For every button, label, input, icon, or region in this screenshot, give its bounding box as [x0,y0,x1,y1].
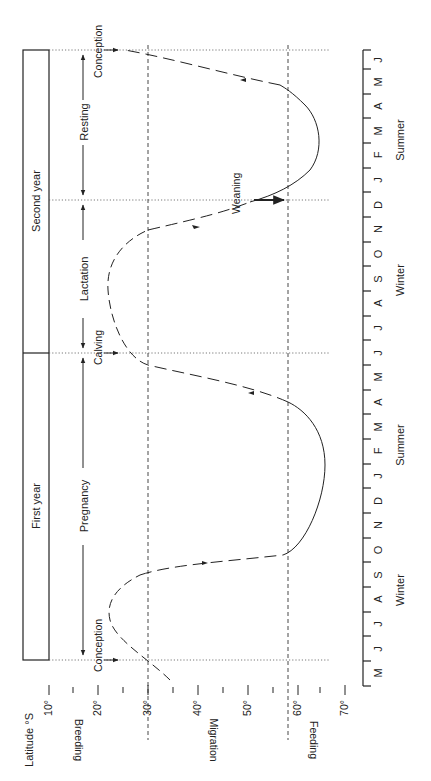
svg-text:A: A [372,595,384,603]
migration-curve [108,50,325,680]
curve-arrows [192,78,254,565]
svg-text:10°: 10° [42,700,54,716]
svg-text:O: O [372,545,384,554]
svg-text:30°: 30° [141,700,153,716]
svg-text:D: D [372,201,384,209]
svg-text:J: J [372,325,384,331]
latitude-ticks-labels: 10° 20° 30° 40° 50° 60° 70° [42,700,350,716]
weaning-label: Weaning [230,173,242,214]
svg-text:Winter: Winter [394,264,406,296]
svg-text:A: A [372,299,384,307]
conception-1-label: Conception [92,619,104,672]
svg-text:J: J [372,646,384,652]
svg-text:J: J [372,350,384,356]
time-axis [363,50,371,686]
latitude-axis-title: Latitude °S [23,713,35,767]
svg-text:N: N [372,225,384,233]
conception-2-label: Conception [92,25,104,78]
first-year-label: First year [30,483,42,529]
svg-text:F: F [372,447,384,454]
svg-text:S: S [372,571,384,578]
svg-text:J: J [372,621,384,627]
svg-text:O: O [372,249,384,258]
svg-text:J: J [372,177,384,183]
svg-text:J: J [372,57,384,63]
svg-text:F: F [372,151,384,158]
resting-label: Resting [78,103,90,140]
zone-migration: Migration [208,718,220,761]
svg-text:M: M [372,126,384,135]
svg-text:60°: 60° [291,700,303,716]
season-labels: Winter Summer Winter Summer [394,119,406,606]
year-box: First year Second year [23,50,49,660]
svg-text:M: M [372,77,384,86]
calving-label: Calving [92,330,104,365]
svg-text:Winter: Winter [394,574,406,606]
svg-text:40°: 40° [191,700,203,716]
svg-text:M: M [372,668,384,677]
latitude-axis [49,685,345,695]
zone-boundaries [148,45,288,740]
zone-breeding: Breeding [73,719,85,761]
svg-text:50°: 50° [241,700,253,716]
svg-text:D: D [372,497,384,505]
svg-text:A: A [372,398,384,406]
lactation-label: Lactation [78,257,90,302]
second-year-label: Second year [30,170,42,232]
svg-text:N: N [372,521,384,529]
svg-text:M: M [372,422,384,431]
svg-text:A: A [372,102,384,110]
month-labels: M J J A S O N D J F M A M J J A S O N D … [372,57,384,677]
svg-text:S: S [372,275,384,282]
svg-text:Summer: Summer [394,119,406,161]
svg-text:M: M [372,372,384,381]
pregnancy-label: Pregnancy [78,479,90,532]
svg-text:Summer: Summer [394,424,406,466]
migration-diagram: First year Second year Pregnancy Lactati… [0,0,431,781]
zone-feeding: Feeding [308,721,320,759]
svg-text:70°: 70° [338,700,350,716]
svg-text:J: J [372,473,384,479]
svg-text:20°: 20° [91,700,103,716]
